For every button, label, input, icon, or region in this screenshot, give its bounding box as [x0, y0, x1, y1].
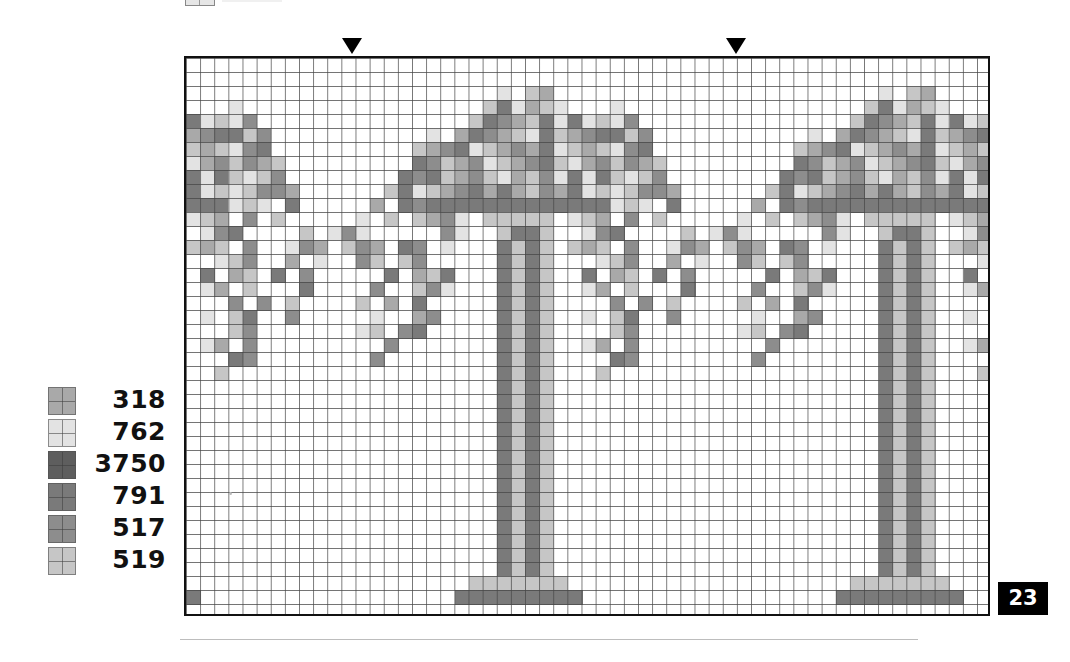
- stitch-cell-519: [540, 240, 555, 255]
- stitch-cell-519: [893, 534, 908, 549]
- stitch-cell-517: [624, 254, 639, 269]
- stitch-cell-519: [511, 296, 526, 311]
- stitch-cell-519: [907, 184, 922, 199]
- legend-item-517: 517: [46, 513, 166, 539]
- stitch-cell-519: [540, 394, 555, 409]
- center-marker-left-triangle-icon: [342, 38, 362, 54]
- stitch-cell-519: [511, 534, 526, 549]
- stitch-cell-519: [879, 212, 894, 227]
- stitch-cell-519: [525, 212, 540, 227]
- stitch-cell-791: [525, 520, 540, 535]
- stitch-cell-791: [879, 268, 894, 283]
- stitch-cell-519: [497, 156, 512, 171]
- stitch-cell-762: [441, 240, 456, 255]
- stitch-cell-519: [525, 170, 540, 185]
- stitch-cell-791: [907, 296, 922, 311]
- stitch-cell-791: [497, 268, 512, 283]
- stitch-cell-318: [752, 240, 767, 255]
- stitch-cell-318: [214, 338, 229, 353]
- stitch-cell-791: [469, 184, 484, 199]
- stitch-cell-519: [554, 156, 569, 171]
- stitch-cell-517: [540, 184, 555, 199]
- stitch-cell-318: [879, 128, 894, 143]
- stitch-cell-519: [921, 268, 936, 283]
- stitch-cell-519: [921, 464, 936, 479]
- stitch-cell-791: [596, 128, 611, 143]
- stitch-cell-519: [412, 212, 427, 227]
- stitch-cell-762: [610, 198, 625, 213]
- stitch-cell-519: [921, 240, 936, 255]
- stitch-cell-791: [257, 142, 272, 157]
- stitch-cell-791: [851, 184, 866, 199]
- stitch-cell-517: [907, 156, 922, 171]
- stitch-cell-517: [243, 142, 258, 157]
- stitch-cell-762: [243, 170, 258, 185]
- stitch-cell-762: [737, 212, 752, 227]
- stitch-cell-791: [921, 142, 936, 157]
- stitch-cell-517: [808, 310, 823, 325]
- stitch-cell-791: [879, 310, 894, 325]
- stitch-cell-519: [540, 212, 555, 227]
- stitch-cell-517: [667, 310, 682, 325]
- stitch-cell-791: [879, 520, 894, 535]
- stitch-cell-517: [808, 156, 823, 171]
- legend-code-label: 318: [112, 385, 166, 415]
- stitch-cell-318: [667, 254, 682, 269]
- stitch-cell-519: [540, 436, 555, 451]
- stitch-cell-791: [186, 198, 201, 213]
- stitch-cell-318: [285, 254, 300, 269]
- stitch-cell-791: [978, 198, 990, 213]
- stitch-cell-517: [723, 226, 738, 241]
- stitch-cell-791: [907, 254, 922, 269]
- stitch-cell-517: [737, 240, 752, 255]
- stitch-cell-762: [610, 100, 625, 115]
- stitch-cell-318: [596, 338, 611, 353]
- stitch-cell-519: [540, 576, 555, 591]
- stitch-cell-791: [525, 534, 540, 549]
- stitch-cell-517: [469, 156, 484, 171]
- stitch-cell-791: [907, 380, 922, 395]
- stitch-cell-791: [610, 128, 625, 143]
- stitch-cell-318: [978, 212, 990, 227]
- stitch-cell-517: [299, 240, 314, 255]
- stitch-cell-517: [794, 240, 809, 255]
- stitch-cell-762: [836, 212, 851, 227]
- stitch-cell-517: [794, 170, 809, 185]
- stitch-cell-791: [921, 590, 936, 605]
- stitch-cell-517: [624, 324, 639, 339]
- stitch-cell-519: [540, 492, 555, 507]
- stitch-cell-517: [271, 184, 286, 199]
- stitch-cell-791: [525, 240, 540, 255]
- stitch-cell-519: [554, 576, 569, 591]
- stitch-cell-517: [794, 254, 809, 269]
- stitch-cell-519: [540, 352, 555, 367]
- stitch-cell-517: [624, 212, 639, 227]
- stitch-cell-791: [497, 436, 512, 451]
- stitch-cell-791: [525, 380, 540, 395]
- stitch-cell-517: [257, 296, 272, 311]
- stitch-cell-519: [596, 366, 611, 381]
- stitch-cell-791: [540, 114, 555, 129]
- stitch-cell-791: [540, 590, 555, 605]
- stitch-cell-519: [610, 156, 625, 171]
- stitch-cell-519: [921, 296, 936, 311]
- stitch-cell-519: [794, 142, 809, 157]
- stitch-cell-517: [794, 198, 809, 213]
- stitch-cell-519: [921, 478, 936, 493]
- stitch-cell-791: [568, 590, 583, 605]
- stitch-cell-318: [200, 240, 215, 255]
- stitch-cell-762: [200, 184, 215, 199]
- stitch-cell-791: [214, 198, 229, 213]
- stitch-cell-517: [921, 170, 936, 185]
- stitch-cell-519: [483, 100, 498, 115]
- legend-item-762: 762: [46, 417, 166, 443]
- stitch-cell-791: [497, 394, 512, 409]
- stitch-cell-519: [511, 240, 526, 255]
- stitch-cell-791: [384, 268, 399, 283]
- stitch-cell-791: [794, 296, 809, 311]
- stitch-cell-318: [596, 282, 611, 297]
- stitch-cell-517: [879, 114, 894, 129]
- stitch-cell-517: [865, 128, 880, 143]
- stitch-cell-519: [893, 464, 908, 479]
- stitch-cell-791: [511, 226, 526, 241]
